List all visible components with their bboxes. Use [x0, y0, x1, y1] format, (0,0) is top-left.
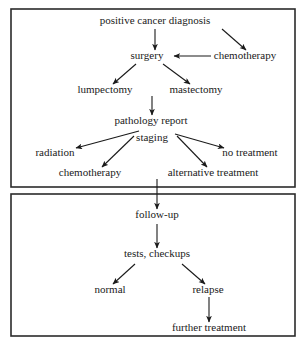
node-staging: staging [136, 131, 168, 143]
node-no-treatment: no treatment [222, 146, 277, 158]
edge-tests-relapse [182, 264, 205, 284]
node-follow-up: follow-up [135, 208, 179, 220]
node-alternative-treatment: alternative treatment [168, 166, 259, 178]
node-normal: normal [94, 283, 125, 295]
node-further-treatment: further treatment [172, 321, 246, 333]
edge-staging-chemotherapy [102, 136, 134, 167]
node-pathology-report: pathology report [114, 114, 187, 126]
node-positive-cancer-diagnosis: positive cancer diagnosis [100, 14, 211, 26]
node-lumpectomy: lumpectomy [78, 83, 133, 95]
node-chemotherapy-initial: chemotherapy [214, 49, 277, 61]
node-chemotherapy-adjuvant: chemotherapy [59, 166, 122, 178]
edge-tests-normal [113, 264, 135, 284]
node-surgery: surgery [131, 49, 164, 61]
edge-staging-radiation [76, 131, 139, 148]
node-group: positive cancer diagnosissurgerychemothe… [35, 14, 277, 333]
phase-box-treatment-phase [11, 9, 295, 187]
edge-diagnosis-chemotherapy [222, 29, 246, 50]
node-mastectomy: mastectomy [169, 83, 223, 95]
edge-surgery-mastectomy [163, 64, 190, 84]
node-tests-checkups: tests, checkups [124, 247, 190, 259]
node-radiation: radiation [35, 146, 75, 158]
node-relapse: relapse [192, 283, 223, 295]
edge-staging-alternative [177, 136, 207, 167]
flowchart-canvas: positive cancer diagnosissurgerychemothe… [0, 0, 306, 347]
flowchart-diagram: positive cancer diagnosissurgerychemothe… [0, 0, 306, 347]
edge-surgery-lumpectomy [113, 64, 136, 84]
